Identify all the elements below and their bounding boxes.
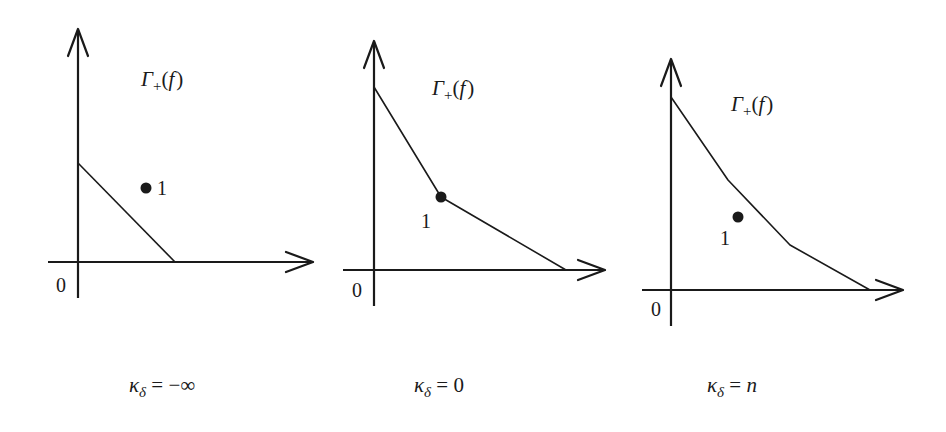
region-label-gamma-plus-f: Γ+(f) [140, 67, 183, 94]
point-1-label: 1 [421, 210, 431, 232]
region-label-gamma-plus-f: Γ+(f) [730, 92, 773, 119]
newton-polygon-boundary [671, 97, 870, 290]
origin-label: 0 [56, 274, 66, 296]
panel-kappa-zero: 1 0 Γ+(f) κδ = 0 [343, 41, 605, 400]
origin-label: 0 [352, 279, 362, 301]
point-1-dot [733, 212, 744, 223]
panel-kappa-n: 1 0 Γ+(f) κδ = n [642, 59, 903, 400]
newton-polygon-boundary [374, 87, 566, 270]
caption-kappa-zero: κδ = 0 [414, 373, 464, 400]
caption-kappa-minus-infinity: κδ = −∞ [129, 373, 195, 400]
point-1-dot [436, 192, 447, 203]
newton-polygon-figure: 1 0 Γ+(f) κδ = −∞ 1 0 Γ+(f) κδ = 0 1 0 Γ… [0, 0, 946, 432]
point-1-label: 1 [157, 177, 167, 199]
panel-kappa-minus-infinity: 1 0 Γ+(f) κδ = −∞ [48, 29, 313, 400]
point-1-dot [141, 183, 152, 194]
point-1-label: 1 [720, 227, 730, 249]
caption-kappa-n: κδ = n [707, 373, 757, 400]
origin-label: 0 [651, 298, 661, 320]
region-label-gamma-plus-f: Γ+(f) [431, 76, 474, 103]
